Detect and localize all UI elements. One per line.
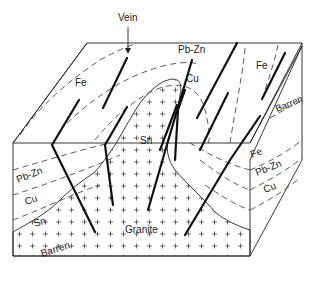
label-barren-right: Barren xyxy=(274,93,305,114)
label-cu-side: Cu xyxy=(262,180,278,195)
label-pb-zn-side: Pb-Zn xyxy=(254,157,283,177)
vein-pointer xyxy=(125,27,131,54)
mineral-zonation-block-diagram: Vein Fe Pb-Zn Cu Fe Barren Sn Pb-Zn Cu S… xyxy=(0,0,319,287)
label-pb-zn-top: Pb-Zn xyxy=(178,44,205,55)
label-fe-top-left: Fe xyxy=(75,77,87,88)
label-fe-side: Fe xyxy=(249,145,264,160)
label-pb-zn-front: Pb-Zn xyxy=(15,164,44,184)
label-granite: Granite xyxy=(125,224,158,235)
label-cu-front: Cu xyxy=(23,192,39,206)
label-cu-top: Cu xyxy=(186,73,199,84)
label-sn-cupola: Sn xyxy=(140,135,152,146)
vein-label: Vein xyxy=(118,12,137,23)
label-fe-top-right: Fe xyxy=(256,60,268,71)
